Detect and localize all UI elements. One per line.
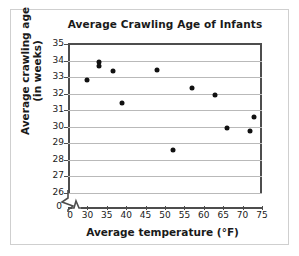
x-tick-mark [184, 206, 185, 210]
y-tick-label: 27 [48, 170, 64, 180]
data-point [225, 126, 230, 131]
x-axis-tick-labels: 030354045505560657075 [0, 210, 299, 224]
x-tick-mark [223, 206, 224, 210]
x-tick-label: 40 [116, 210, 136, 220]
y-axis-title-line-1: Average crawling age [19, 7, 31, 135]
data-point [155, 68, 160, 73]
y-tick-label: 32 [48, 88, 64, 98]
data-point [85, 78, 90, 83]
data-point [110, 69, 115, 74]
y-tick-label: 30 [48, 121, 64, 131]
data-point [170, 147, 175, 152]
x-tick-label: 75 [252, 210, 272, 220]
x-tick-label: 30 [77, 210, 97, 220]
y-axis-title-line-2: (in weeks) [31, 0, 43, 151]
y-tick-label: 35 [48, 38, 64, 48]
x-tick-label: 65 [213, 210, 233, 220]
x-tick-label: 55 [174, 210, 194, 220]
x-axis-title: Average temperature (°F) [55, 226, 270, 238]
data-point [97, 64, 102, 69]
data-point [252, 114, 257, 119]
x-tick-mark [126, 206, 127, 210]
x-tick-label: 45 [136, 210, 156, 220]
x-tick-mark [107, 206, 108, 210]
y-axis-title: Average crawling age (in weeks) [19, 0, 49, 151]
y-tick-label: 28 [48, 154, 64, 164]
data-point [120, 100, 125, 105]
scatter-plot-area [68, 43, 262, 194]
x-tick-mark [243, 206, 244, 210]
x-tick-mark [262, 206, 263, 210]
chart-title: Average Crawling Age of Infants [40, 18, 290, 30]
x-tick-label: 60 [194, 210, 214, 220]
chart-page: Average Crawling Age of Infants Average … [0, 0, 299, 256]
y-tick-label: 31 [48, 104, 64, 114]
y-tick-label: 34 [48, 55, 64, 65]
x-tick-mark [146, 206, 147, 210]
x-tick-label: 70 [233, 210, 253, 220]
x-tick-mark [165, 206, 166, 210]
y-tick-label: 33 [48, 71, 64, 81]
x-tick-mark [204, 206, 205, 210]
x-axis-line [81, 207, 262, 209]
x-tick-mark [87, 206, 88, 210]
data-point [190, 85, 195, 90]
x-tick-label: 35 [97, 210, 117, 220]
data-point [248, 128, 253, 133]
data-point [213, 93, 218, 98]
x-tick-label: 50 [155, 210, 175, 220]
y-tick-label: 29 [48, 137, 64, 147]
